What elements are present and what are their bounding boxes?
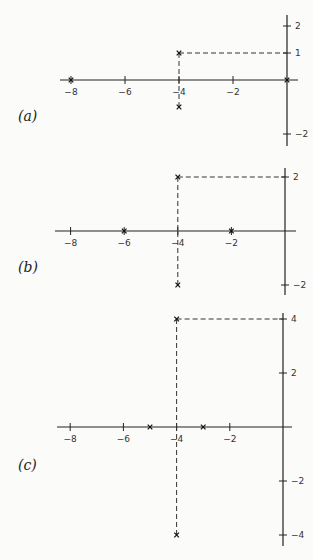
real-tick-label: −2: [223, 434, 236, 444]
real-tick-label: −8: [64, 434, 78, 444]
real-tick-label: −6: [118, 238, 132, 248]
real-tick-label: −8: [64, 87, 78, 97]
imag-tick-label: 1: [295, 48, 301, 58]
real-tick-label: −8: [64, 238, 78, 248]
imag-tick-label: 2: [293, 172, 299, 182]
imag-tick-label: 2: [295, 21, 301, 31]
imag-tick-label: 2: [291, 368, 297, 378]
imag-tick-label: 4: [291, 314, 297, 324]
real-tick-label: −6: [117, 434, 131, 444]
panel-label: (a): [18, 108, 37, 124]
panel-label: (b): [18, 259, 38, 275]
imag-tick-label: −2: [295, 129, 308, 139]
pole-plot-figure: −8−6−4−221−2(a)−8−6−4−22−2(b)−8−6−4−242−…: [0, 0, 313, 560]
panel-a: −8−6−4−221−2(a): [18, 15, 308, 146]
imag-tick-label: −4: [291, 530, 305, 540]
panel-label: (c): [18, 457, 37, 473]
real-tick-label: −6: [118, 87, 132, 97]
imag-tick-label: −2: [293, 280, 306, 290]
real-tick-label: −2: [226, 87, 239, 97]
panel-b: −8−6−4−22−2(b): [18, 168, 306, 295]
panel-c: −8−6−4−242−2−4(c): [18, 313, 305, 546]
imag-tick-label: −2: [291, 476, 304, 486]
real-tick-label: −2: [225, 238, 238, 248]
